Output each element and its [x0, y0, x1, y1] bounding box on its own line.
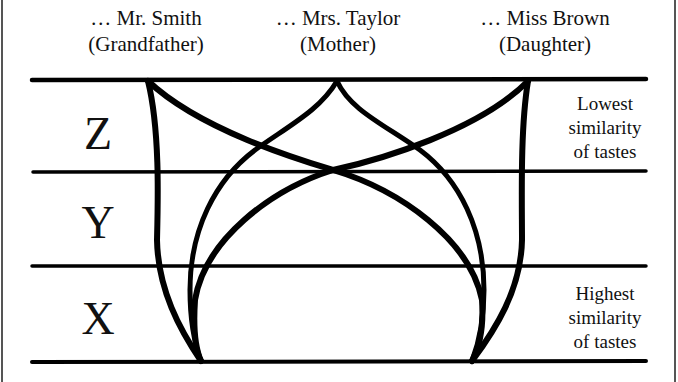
- note-bottom-line3: of tastes: [564, 330, 646, 354]
- note-top-line2: similarity: [564, 116, 646, 140]
- note-top-line1: Lowest: [564, 92, 646, 116]
- level-x-label: X: [78, 296, 118, 342]
- level-line-bottom: [32, 361, 646, 362]
- note-highest-similarity: Highest similarity of tastes: [564, 282, 646, 354]
- note-bottom-line2: similarity: [564, 306, 646, 330]
- note-lowest-similarity: Lowest similarity of tastes: [564, 92, 646, 164]
- curve-smith-right: [148, 81, 482, 361]
- level-y-label: Y: [78, 200, 118, 246]
- note-top-line3: of tastes: [564, 140, 646, 164]
- level-z-label: Z: [78, 111, 118, 157]
- note-bottom-line1: Highest: [564, 282, 646, 306]
- curve-brown-left: [194, 81, 528, 361]
